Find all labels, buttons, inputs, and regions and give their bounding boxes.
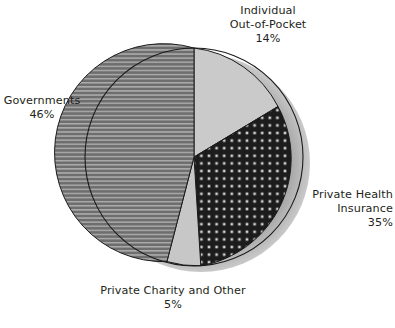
slice-label-line: Out-of-Pocket [203, 18, 333, 32]
slice-label-private-health-insurance: Private Health Insurance 35% [297, 188, 393, 231]
pie-chart: Individual Out-of-Pocket 14% Governments… [0, 0, 395, 328]
slice-value: 5% [98, 298, 248, 312]
pie-slice-governments [55, 44, 194, 262]
slice-label-governments: Governments 46% [2, 94, 82, 122]
slice-value: 14% [203, 32, 333, 46]
slice-label-private-charity-and-other: Private Charity and Other 5% [98, 284, 248, 312]
slice-label-line: Private Health [297, 188, 393, 202]
slice-value: 35% [297, 216, 393, 230]
pie-chart-canvas [0, 0, 395, 328]
slice-label-line: Governments [2, 94, 82, 108]
slice-label-out-of-pocket: Individual Out-of-Pocket 14% [203, 4, 333, 47]
slice-value: 46% [2, 108, 82, 122]
slice-label-line: Individual [203, 4, 333, 18]
slice-label-line: Insurance [297, 202, 393, 216]
slice-label-line: Private Charity and Other [98, 284, 248, 298]
